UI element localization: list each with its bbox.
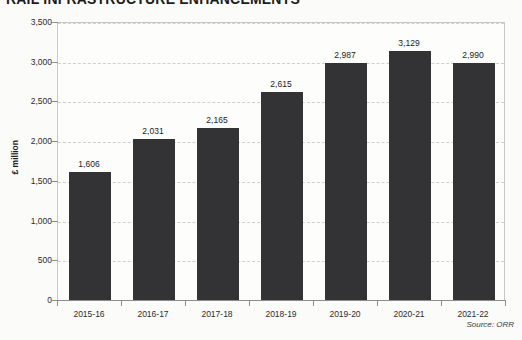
- y-tick-label: 2,000: [31, 136, 52, 146]
- chart-title-cropped: RAIL INFRASTRUCTURE ENHANCEMENTS: [0, 0, 522, 9]
- y-tick-mark: [52, 101, 58, 102]
- x-axis-baseline: [57, 300, 506, 301]
- x-tick-mark: [57, 300, 58, 306]
- x-tick-mark: [185, 300, 186, 306]
- x-tick-mark: [441, 300, 442, 306]
- plot-inner: [58, 23, 504, 300]
- bar[interactable]: [453, 63, 495, 300]
- y-tick-label: 1,000: [31, 216, 52, 226]
- bar-value-label: 2,165: [206, 115, 227, 125]
- x-tick-label: 2015-16: [73, 309, 104, 319]
- bar[interactable]: [133, 139, 175, 300]
- x-tick-mark: [377, 300, 378, 306]
- x-tick-mark: [121, 300, 122, 306]
- x-tick-label: 2018-19: [265, 309, 296, 319]
- x-tick-mark: [249, 300, 250, 306]
- x-tick-label: 2019-20: [329, 309, 360, 319]
- bar[interactable]: [261, 92, 303, 300]
- y-axis-title: £ million: [10, 140, 20, 174]
- y-axis-labels: 05001,0001,5002,0002,5003,0003,500: [0, 0, 52, 340]
- bar-value-label: 2,031: [142, 126, 163, 136]
- x-tick-label: 2017-18: [201, 309, 232, 319]
- bar-value-label: 3,129: [398, 38, 419, 48]
- y-tick-mark: [52, 62, 58, 63]
- bar[interactable]: [197, 128, 239, 300]
- chart-page: RAIL INFRASTRUCTURE ENHANCEMENTS 05001,0…: [0, 0, 522, 340]
- y-tick-label: 3,500: [31, 17, 52, 27]
- y-tick-mark: [52, 181, 58, 182]
- bar[interactable]: [389, 51, 431, 300]
- x-tick-label: 2021-22: [457, 309, 488, 319]
- y-tick-label: 500: [38, 255, 52, 265]
- y-tick-label: 2,500: [31, 96, 52, 106]
- bar-value-label: 2,990: [462, 50, 483, 60]
- gridline: [58, 63, 504, 64]
- x-tick-mark: [313, 300, 314, 306]
- x-tick-label: 2016-17: [137, 309, 168, 319]
- bar[interactable]: [69, 172, 111, 300]
- y-tick-mark: [52, 221, 58, 222]
- gridline: [58, 23, 504, 24]
- y-tick-mark: [52, 22, 58, 23]
- y-tick-mark: [52, 141, 58, 142]
- y-tick-label: 3,000: [31, 57, 52, 67]
- bar-value-label: 1,606: [78, 159, 99, 169]
- plot-area: [57, 22, 505, 300]
- x-tick-mark: [505, 300, 506, 306]
- x-tick-label: 2020-21: [393, 309, 424, 319]
- y-tick-label: 1,500: [31, 176, 52, 186]
- source-note: Source: ORR: [466, 320, 514, 329]
- bar-value-label: 2,987: [334, 50, 355, 60]
- bar[interactable]: [325, 63, 367, 300]
- bar-value-label: 2,615: [270, 79, 291, 89]
- y-tick-mark: [52, 260, 58, 261]
